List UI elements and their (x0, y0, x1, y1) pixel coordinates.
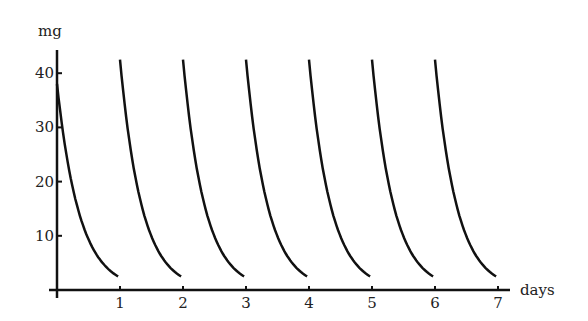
x-tick-label: 4 (304, 294, 314, 312)
decay-curve-day1 (120, 60, 181, 277)
decay-curve-day5 (372, 60, 433, 277)
x-axis-label: days (520, 281, 555, 299)
decay-curve-day2 (183, 60, 244, 277)
decay-chart: 123456710203040 mg days (0, 0, 588, 321)
y-tick-label: 20 (35, 173, 54, 191)
x-tick-label: 6 (430, 294, 440, 312)
curves (57, 60, 496, 277)
x-tick-label: 5 (367, 294, 377, 312)
x-tick-label: 3 (241, 294, 251, 312)
x-tick-label: 1 (115, 294, 125, 312)
decay-curve-day0 (57, 84, 118, 276)
x-tick-label: 7 (493, 294, 503, 312)
decay-curve-day4 (309, 60, 370, 277)
y-axis-label: mg (38, 22, 62, 40)
x-tick-label: 2 (178, 294, 188, 312)
y-tick-label: 10 (35, 227, 54, 245)
decay-curve-day6 (435, 60, 496, 277)
y-tick-label: 30 (35, 118, 54, 136)
decay-curve-day3 (246, 60, 307, 277)
y-tick-label: 40 (35, 64, 54, 82)
